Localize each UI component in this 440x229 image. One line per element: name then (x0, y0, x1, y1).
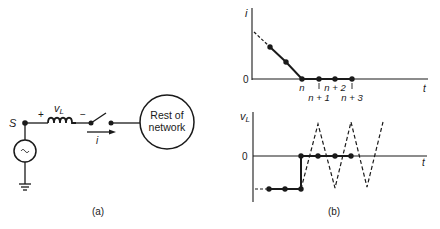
caption-b: (b) (328, 206, 340, 217)
figure-canvas: S + − vL i Rest of network (a) i 0 t n n… (0, 0, 440, 229)
current-trace (270, 47, 352, 79)
switch-icon (91, 113, 106, 123)
plus-sign: + (38, 109, 44, 120)
switch-pivot-dot (89, 121, 94, 126)
switch-contact-dot (109, 121, 114, 126)
top-ylabel: i (245, 7, 248, 19)
load-label-line1: Rest of (150, 109, 183, 121)
bottom-xlabel: t (422, 157, 426, 168)
top-xlabel: t (423, 83, 427, 94)
tick-n: n (299, 82, 304, 93)
bottom-zero-label: 0 (242, 151, 248, 162)
minus-sign: − (80, 109, 86, 120)
caption-a: (a) (92, 206, 104, 217)
current-label: i (96, 135, 99, 146)
voltage-trace (269, 156, 351, 189)
tick-n-plus-3: n + 3 (341, 92, 363, 103)
voltage-plot (253, 112, 427, 202)
ground-icon (19, 184, 31, 190)
extrapolation-dashed (254, 32, 270, 47)
top-zero-label: 0 (243, 74, 249, 85)
bottom-ylabel: vL (240, 110, 250, 124)
inductor-voltage-label: vL (54, 102, 64, 116)
load-label-line2: network (149, 121, 187, 133)
current-plot (252, 8, 428, 89)
tick-n-plus-1: n + 1 (308, 92, 329, 103)
node-label-s: S (9, 117, 17, 129)
inductor-icon (48, 118, 76, 123)
node-s-dot (22, 120, 28, 126)
